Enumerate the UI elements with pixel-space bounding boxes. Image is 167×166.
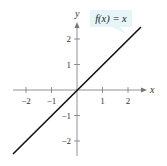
y-tick-label: 2 bbox=[67, 34, 72, 44]
x-tick-label: −1 bbox=[47, 96, 57, 106]
y-tick-label: −1 bbox=[61, 111, 71, 121]
x-axis-label: x bbox=[149, 84, 155, 95]
y-tick-label: −2 bbox=[61, 136, 71, 146]
y-axis-arrow-icon bbox=[75, 22, 80, 28]
y-axis-label: y bbox=[74, 8, 80, 19]
function-graph: −2 −1 1 2 2 1 −1 −2 x y f(x) = x bbox=[0, 0, 167, 166]
x-axis-arrow-icon bbox=[141, 88, 147, 93]
x-tick-label: 1 bbox=[100, 96, 105, 106]
function-label: f(x) = x bbox=[95, 13, 127, 25]
y-tick-label: 1 bbox=[67, 60, 72, 70]
x-tick-label: −2 bbox=[21, 96, 31, 106]
x-tick-label: 2 bbox=[126, 96, 131, 106]
